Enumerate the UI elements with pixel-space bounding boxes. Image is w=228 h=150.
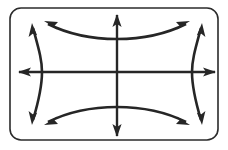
conjugate-hyperbolas-figure <box>0 0 228 150</box>
figure-container <box>0 0 228 150</box>
